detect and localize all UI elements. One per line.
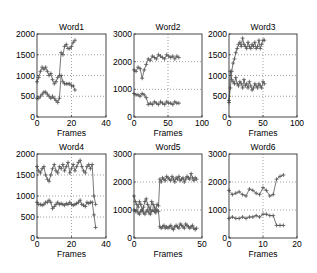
x-tick-label: 10 (258, 239, 268, 249)
x-tick-label: 0 (35, 118, 40, 128)
y-tick-label: 2000 (16, 149, 35, 159)
y-tick-label: 3000 (113, 29, 132, 39)
x-tick-label: 50 (258, 118, 268, 128)
figure-canvas: 020400500100015002000Word1Frames05010001… (0, 0, 317, 273)
subplot-title: Word5 (156, 142, 181, 152)
y-tick-label: 1000 (16, 71, 35, 81)
y-tick-label: 2000 (113, 177, 132, 187)
x-tick-label: 0 (227, 118, 232, 128)
x-tick-label: 0 (132, 118, 137, 128)
x-tick-label: 0 (227, 239, 232, 249)
y-tick-label: 500 (213, 91, 227, 101)
x-tick-label: 50 (163, 118, 173, 128)
x-tick-label: 100 (195, 118, 209, 128)
x-tick-label: 50 (197, 239, 207, 249)
y-tick-label: 1000 (208, 205, 227, 215)
x-tick-label: 20 (67, 239, 77, 249)
x-axis-label: Frames (57, 249, 86, 259)
y-tick-label: 1000 (113, 84, 132, 94)
y-tick-label: 0 (30, 112, 35, 122)
y-tick-label: 0 (222, 233, 227, 243)
y-tick-label: 500 (21, 91, 35, 101)
figure: 020400500100015002000Word1Frames05010001… (0, 0, 317, 273)
x-tick-label: 0 (35, 239, 40, 249)
y-tick-label: 0 (222, 112, 227, 122)
subplot-title: Word1 (59, 22, 84, 32)
x-axis-label: Frames (154, 249, 183, 259)
subplot-title: Word4 (59, 142, 84, 152)
y-tick-label: 1500 (16, 170, 35, 180)
x-axis-label: Frames (249, 128, 278, 138)
y-tick-label: 0 (30, 233, 35, 243)
y-tick-label: 2000 (208, 177, 227, 187)
y-tick-label: 0 (127, 112, 132, 122)
x-axis-label: Frames (57, 128, 86, 138)
x-tick-label: 20 (292, 239, 302, 249)
x-tick-label: 40 (101, 118, 111, 128)
y-tick-label: 2000 (208, 29, 227, 39)
x-tick-label: 100 (290, 118, 304, 128)
subplot-word6: 010200100020003000Word6Frames (208, 142, 302, 259)
y-tick-label: 0 (127, 233, 132, 243)
subplot-title: Word2 (156, 22, 181, 32)
x-axis-label: Frames (154, 128, 183, 138)
subplot-word4: 020400500100015002000Word4Frames (16, 142, 111, 259)
subplot-title: Word6 (251, 142, 276, 152)
y-tick-label: 1000 (208, 71, 227, 81)
y-tick-label: 500 (21, 212, 35, 222)
x-tick-label: 40 (101, 239, 111, 249)
y-tick-label: 1500 (16, 50, 35, 60)
y-tick-label: 1500 (208, 50, 227, 60)
subplot-word5: 0500100020003000Word5Frames (113, 142, 207, 259)
subplot-title: Word3 (251, 22, 276, 32)
y-tick-label: 2000 (113, 57, 132, 67)
y-tick-label: 3000 (113, 149, 132, 159)
y-tick-label: 3000 (208, 149, 227, 159)
x-axis-label: Frames (249, 249, 278, 259)
subplot-word3: 0501000500100015002000Word3Frames (208, 22, 304, 138)
y-tick-label: 1000 (113, 205, 132, 215)
subplot-word1: 020400500100015002000Word1Frames (16, 22, 111, 138)
y-tick-label: 2000 (16, 29, 35, 39)
y-tick-label: 1000 (16, 191, 35, 201)
subplot-word2: 0501000100020003000Word2Frames (113, 22, 209, 138)
x-tick-label: 0 (132, 239, 137, 249)
x-tick-label: 20 (67, 118, 77, 128)
